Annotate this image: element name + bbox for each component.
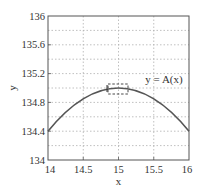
svg-text:135.2: 135.2	[21, 68, 45, 79]
curve-label: y = A(x)	[145, 73, 183, 86]
svg-text:14: 14	[45, 164, 56, 175]
x-axis-label: x	[116, 175, 122, 187]
svg-text:136: 136	[29, 11, 45, 22]
svg-text:15.5: 15.5	[145, 164, 163, 175]
chart: 136 135.6 135.2 134.8 134.4 134 14 14.5 …	[0, 0, 205, 195]
svg-text:134: 134	[29, 155, 46, 166]
svg-text:14.5: 14.5	[74, 164, 92, 175]
svg-text:15: 15	[113, 164, 124, 175]
svg-text:134.4: 134.4	[21, 126, 45, 137]
svg-text:135.6: 135.6	[21, 39, 45, 50]
svg-text:16: 16	[182, 164, 193, 175]
x-tick-labels: 14 14.5 15 15.5 16	[45, 164, 193, 175]
y-axis-label: y	[6, 85, 18, 91]
y-tick-labels: 136 135.6 135.2 134.8 134.4 134	[21, 11, 45, 166]
svg-text:134.8: 134.8	[21, 97, 45, 108]
